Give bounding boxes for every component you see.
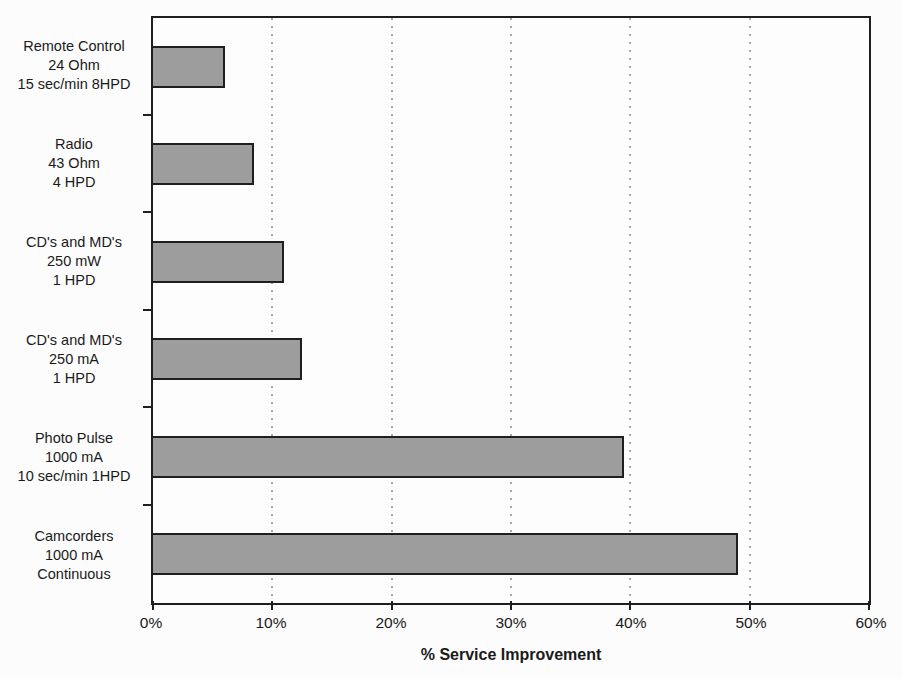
- x-axis-tick-label: 30%: [495, 614, 526, 632]
- bar-chart-figure: Remote Control24 Ohm15 sec/min 8HPDRadio…: [0, 0, 902, 679]
- x-axis-tick-label: 0%: [140, 614, 162, 632]
- category-label-line: 1000 mA: [2, 448, 146, 467]
- category-label-line: 10 sec/min 1HPD: [2, 467, 146, 486]
- x-axis-tick: [629, 601, 631, 610]
- x-axis-tick: [391, 601, 393, 610]
- x-axis-tick: [868, 601, 870, 610]
- category-label: CD's and MD's250 mW1 HPD: [2, 212, 146, 310]
- bar-row: [153, 116, 869, 214]
- category-label: Camcorders1000 mAContinuous: [2, 507, 146, 605]
- category-label: Photo Pulse1000 mA10 sec/min 1HPD: [2, 409, 146, 507]
- category-label-line: 24 Ohm: [2, 56, 146, 75]
- bar: [153, 46, 225, 88]
- x-axis-tick: [510, 601, 512, 610]
- x-axis-tick-label: 40%: [615, 614, 646, 632]
- bar-row: [153, 18, 869, 116]
- category-label: Radio43 Ohm4 HPD: [2, 114, 146, 212]
- category-label-line: 1 HPD: [2, 369, 146, 388]
- y-axis-tick: [143, 309, 151, 311]
- category-label-line: Remote Control: [2, 37, 146, 56]
- x-axis-tick: [271, 601, 273, 610]
- bar-row: [153, 408, 869, 506]
- category-label-line: 1000 mA: [2, 546, 146, 565]
- bar: [153, 143, 254, 185]
- bar: [153, 436, 624, 478]
- y-axis-tick: [143, 504, 151, 506]
- bar-row: [153, 213, 869, 311]
- x-axis-tick-label: 50%: [735, 614, 766, 632]
- x-axis-tick-label: 60%: [855, 614, 886, 632]
- y-axis-labels: Remote Control24 Ohm15 sec/min 8HPDRadio…: [2, 16, 146, 605]
- bar: [153, 241, 284, 283]
- category-label-line: 43 Ohm: [2, 154, 146, 173]
- x-axis-title: % Service Improvement: [151, 646, 871, 664]
- plot-area: [151, 16, 871, 605]
- y-axis-tick: [143, 114, 151, 116]
- bar: [153, 338, 302, 380]
- category-label: Remote Control24 Ohm15 sec/min 8HPD: [2, 16, 146, 114]
- category-label-line: 15 sec/min 8HPD: [2, 75, 146, 94]
- category-label-line: 4 HPD: [2, 173, 146, 192]
- category-label-line: 1 HPD: [2, 271, 146, 290]
- x-axis-tick-label: 10%: [255, 614, 286, 632]
- bar-row: [153, 311, 869, 409]
- category-label-line: 250 mA: [2, 350, 146, 369]
- x-axis-tick: [152, 601, 154, 610]
- x-axis-tick: [749, 601, 751, 610]
- category-label-line: CD's and MD's: [2, 331, 146, 350]
- category-label: CD's and MD's250 mA1 HPD: [2, 311, 146, 409]
- x-axis-tick-label: 20%: [375, 614, 406, 632]
- y-axis-tick: [143, 406, 151, 408]
- y-axis-tick: [143, 211, 151, 213]
- category-label-line: Photo Pulse: [2, 429, 146, 448]
- bar: [153, 533, 738, 575]
- category-label-line: Camcorders: [2, 527, 146, 546]
- category-label-line: Continuous: [2, 565, 146, 584]
- category-label-line: Radio: [2, 135, 146, 154]
- bar-row: [153, 506, 869, 604]
- category-label-line: 250 mW: [2, 252, 146, 271]
- category-label-line: CD's and MD's: [2, 233, 146, 252]
- x-axis-tick-labels: 0%10%20%30%40%50%60%: [151, 614, 871, 636]
